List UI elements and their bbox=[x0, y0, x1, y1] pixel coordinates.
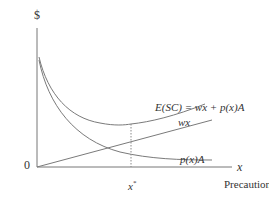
origin-label: 0 bbox=[24, 159, 30, 171]
y-axis-label: $ bbox=[34, 9, 40, 21]
pxa-label: p(x)A bbox=[180, 154, 204, 165]
wx-label: wx bbox=[178, 117, 190, 128]
esc-curve bbox=[39, 57, 205, 125]
x-axis-caption: Precaution bbox=[224, 179, 269, 190]
x-star-superscript: * bbox=[133, 179, 137, 187]
x-star-label: x* bbox=[128, 180, 136, 192]
precaution-cost-diagram: $ 0 x Precaution x* E(SC) = wx + p(x)A w… bbox=[0, 0, 269, 201]
x-axis-label: x bbox=[237, 161, 242, 173]
esc-label: E(SC) = wx + p(x)A bbox=[155, 102, 244, 113]
